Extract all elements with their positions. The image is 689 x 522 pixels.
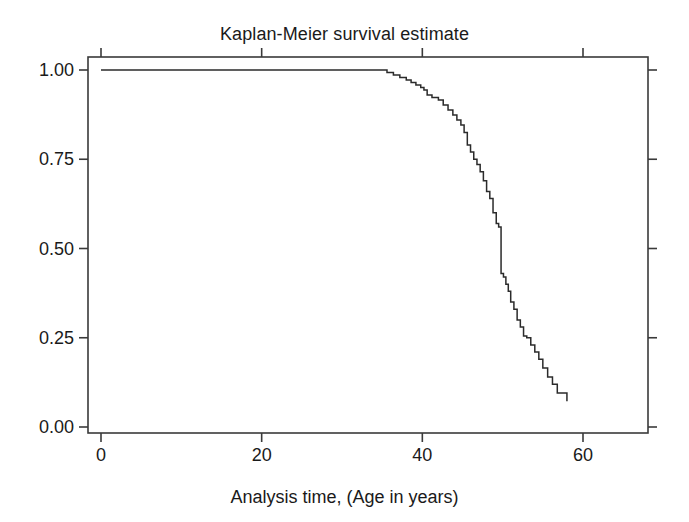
x-tick-label: 60 [559, 446, 607, 464]
chart-figure: Kaplan-Meier survival estimate 0.000.250… [0, 0, 689, 522]
x-axis-label: Analysis time, (Age in years) [0, 487, 689, 508]
plot-area [0, 0, 689, 522]
y-tick-label: 0.50 [12, 240, 74, 258]
y-tick-label: 0.00 [12, 418, 74, 436]
y-axis-ticks [79, 70, 657, 427]
y-tick-label: 1.00 [12, 61, 74, 79]
x-tick-label: 40 [398, 446, 446, 464]
y-tick-label: 0.75 [12, 150, 74, 168]
x-tick-label: 20 [238, 446, 286, 464]
plot-frame [88, 57, 648, 433]
y-tick-label: 0.25 [12, 329, 74, 347]
survival-curve [101, 70, 567, 401]
x-axis-ticks [101, 48, 583, 442]
x-tick-label: 0 [77, 446, 125, 464]
